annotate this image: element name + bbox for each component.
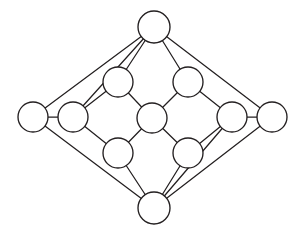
node-circle[interactable] [18, 102, 48, 132]
graph-edge [154, 27, 272, 117]
node-circle[interactable] [173, 138, 203, 168]
graph-node-left-inner[interactable] [58, 102, 88, 132]
graph-node-lower-left[interactable] [103, 138, 133, 168]
node-circle[interactable] [58, 102, 88, 132]
graph-node-top[interactable] [138, 11, 170, 43]
graph-node-right-outer[interactable] [257, 102, 287, 132]
graph-edge [33, 117, 154, 208]
node-circle[interactable] [257, 102, 287, 132]
graph-node-upper-right[interactable] [173, 67, 203, 97]
node-circle[interactable] [217, 102, 247, 132]
graph-canvas [0, 0, 302, 227]
graph-node-center[interactable] [137, 103, 167, 133]
graph-node-lower-right[interactable] [173, 138, 203, 168]
node-circle[interactable] [103, 138, 133, 168]
graph-node-bottom[interactable] [138, 192, 170, 224]
graph-node-right-inner[interactable] [217, 102, 247, 132]
graph-node-upper-left[interactable] [103, 67, 133, 97]
graph-edge [33, 27, 154, 117]
graph-node-left-outer[interactable] [18, 102, 48, 132]
node-circle[interactable] [138, 11, 170, 43]
graph-edge [154, 117, 272, 208]
node-circle[interactable] [173, 67, 203, 97]
node-circle[interactable] [138, 192, 170, 224]
node-circle[interactable] [103, 67, 133, 97]
node-circle[interactable] [137, 103, 167, 133]
node-layer [18, 11, 287, 224]
graph-figure [0, 0, 302, 227]
